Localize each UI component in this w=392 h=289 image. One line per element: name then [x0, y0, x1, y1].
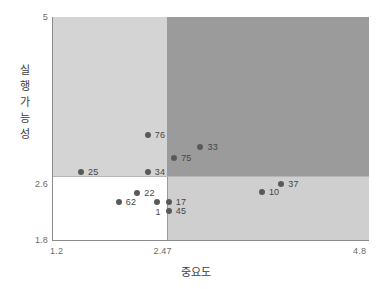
data-point-label: 76	[155, 131, 165, 140]
data-point	[134, 190, 140, 196]
quadrant-divider-vertical	[167, 17, 168, 240]
data-point	[116, 199, 122, 205]
data-point-label: 37	[288, 180, 298, 189]
data-point	[166, 208, 172, 214]
data-point-label: 1	[155, 208, 160, 217]
x-axis-tick-label: 1.2	[50, 247, 63, 256]
quadrant-top-left	[53, 17, 167, 176]
data-point-label: 25	[88, 168, 98, 177]
y-axis-title-char-2: 가	[14, 94, 36, 110]
quadrant-bottom-right	[167, 176, 369, 240]
y-axis-tick-label: 1.8	[18, 236, 48, 245]
x-axis-title: 중요도	[0, 266, 392, 278]
data-point-label: 10	[269, 188, 279, 197]
quadrant-divider-horizontal	[53, 176, 369, 177]
y-axis-title-char-1: 행	[14, 78, 36, 94]
plot-area: 25763475333710226211745	[52, 17, 369, 241]
scatter-chart: 25763475333710226211745 52.61.8 1.22.474…	[0, 0, 392, 289]
y-axis-tick-label: 5	[18, 13, 48, 22]
y-axis-title: 실 행 가 능 성	[14, 62, 36, 142]
y-axis-title-char-4: 성	[14, 126, 36, 142]
y-axis-title-char-0: 실	[14, 62, 36, 78]
y-axis-title-char-3: 능	[14, 110, 36, 126]
data-point-label: 33	[207, 143, 217, 152]
data-point	[166, 199, 172, 205]
data-point-label: 62	[126, 198, 136, 207]
data-point-label: 45	[176, 207, 186, 216]
quadrant-top-right	[167, 17, 369, 176]
data-point-label: 34	[155, 168, 165, 177]
data-point-label: 75	[181, 154, 191, 163]
data-point	[259, 189, 265, 195]
y-axis-tick-label: 2.6	[18, 180, 48, 189]
x-axis-tick-label: 4.8	[353, 247, 366, 256]
x-axis-tick-label: 2.47	[153, 247, 171, 256]
quadrant-bottom-left	[53, 176, 167, 240]
data-point-label: 22	[144, 189, 154, 198]
